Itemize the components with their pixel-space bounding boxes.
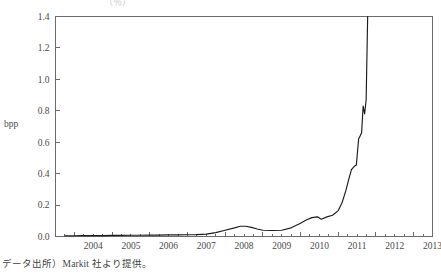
y-tick-label: 0.8 bbox=[38, 106, 50, 116]
x-tick-label: 2006 bbox=[159, 241, 178, 251]
y-axis-title-label: bpp bbox=[4, 119, 19, 129]
y-tick-label: 0.4 bbox=[38, 169, 50, 179]
y-axis-ticks bbox=[56, 17, 60, 237]
x-tick-label: 2009 bbox=[272, 241, 291, 251]
line-chart: 0.00.20.40.60.81.01.21.4 200420052006200… bbox=[0, 0, 441, 274]
x-tick-label: 2011 bbox=[348, 241, 367, 251]
x-tick-label: 2004 bbox=[84, 241, 103, 251]
y-tick-label: 0.6 bbox=[38, 138, 50, 148]
y-tick-label: 1.4 bbox=[38, 12, 50, 22]
y-tick-label: 1.0 bbox=[38, 75, 50, 85]
x-tick-label: 2008 bbox=[235, 241, 254, 251]
data-series bbox=[65, 17, 368, 236]
x-tick-label: 2010 bbox=[310, 241, 329, 251]
figure-container: （％） 0.00.20.40.60.81.01.21.4 20042005200… bbox=[0, 0, 441, 274]
y-tick-label: 0.2 bbox=[38, 200, 50, 210]
x-tick-label: 2013 bbox=[423, 241, 441, 251]
x-axis-tick-labels: 2004200520062007200820092010201120122013 bbox=[84, 241, 441, 251]
y-axis-title: bpp bbox=[4, 119, 19, 129]
series-line-bpp bbox=[65, 17, 368, 236]
y-tick-label: 0.0 bbox=[38, 232, 50, 242]
x-tick-label: 2005 bbox=[121, 241, 140, 251]
x-tick-label: 2012 bbox=[385, 241, 404, 251]
x-tick-label: 2007 bbox=[197, 241, 216, 251]
source-caption: データ出所）Markit 社より提供。 bbox=[2, 256, 152, 270]
y-axis-tick-labels: 0.00.20.40.60.81.01.21.4 bbox=[38, 12, 50, 242]
plot-frame bbox=[56, 17, 433, 237]
y-tick-label: 1.2 bbox=[38, 43, 50, 53]
